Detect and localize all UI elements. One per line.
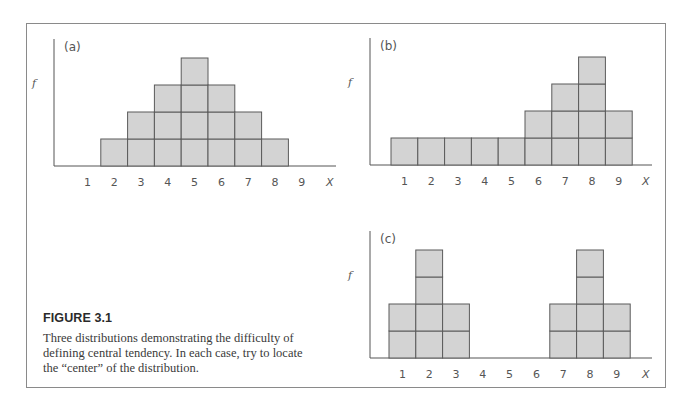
histogram-block: [577, 250, 604, 277]
histogram-block: [577, 277, 604, 304]
histogram-block: [577, 331, 604, 358]
histogram-block: [389, 331, 416, 358]
x-tick-label: 1: [399, 368, 406, 381]
x-tick-label: 2: [426, 368, 433, 381]
histogram-block: [577, 304, 604, 331]
histogram-block: [443, 304, 470, 331]
histogram-block: [389, 304, 416, 331]
histogram-block: [443, 331, 470, 358]
histogram-block: [416, 304, 443, 331]
histogram-block: [550, 331, 577, 358]
y-axis-label: f: [347, 269, 354, 282]
x-tick-label: 7: [560, 368, 567, 381]
x-tick-label: 3: [453, 368, 460, 381]
histogram-block: [550, 304, 577, 331]
histogram-block: [603, 304, 630, 331]
histogram-block: [416, 331, 443, 358]
figure-caption: FIGURE 3.1 Three distributions demonstra…: [43, 311, 323, 376]
figure-title: FIGURE 3.1: [43, 311, 323, 325]
histogram-block: [603, 331, 630, 358]
x-tick-label: 4: [479, 368, 486, 381]
x-tick-label: 5: [506, 368, 513, 381]
histogram-block: [416, 250, 443, 277]
x-tick-label: 6: [533, 368, 540, 381]
panel-label: (c): [380, 232, 396, 246]
x-tick-label: 9: [613, 368, 620, 381]
figure-caption-text: Three distributions demonstrating the di…: [43, 331, 318, 376]
histogram-block: [416, 277, 443, 304]
x-axis-label: X: [641, 368, 650, 381]
x-tick-label: 8: [587, 368, 594, 381]
